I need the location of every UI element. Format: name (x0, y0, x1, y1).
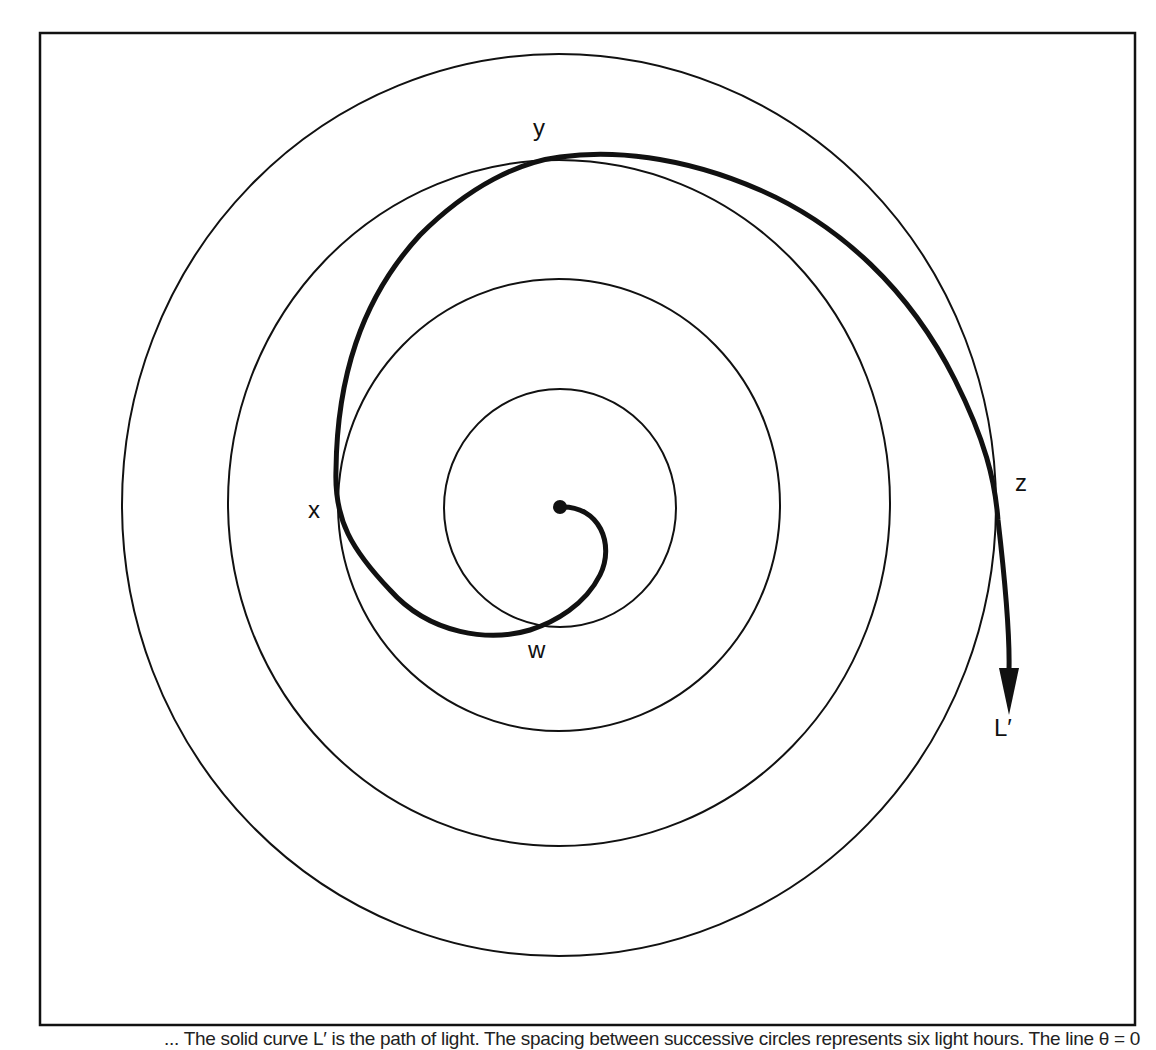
figure-caption: ... The solid curve L′ is the path of li… (40, 1028, 1140, 1050)
center-point (553, 500, 567, 514)
arrow-head-icon (999, 668, 1019, 715)
label-x: x (308, 498, 320, 522)
light-path-curve (336, 154, 1009, 670)
figure-frame (40, 33, 1135, 1025)
label-y: y (533, 116, 545, 140)
label-z: z (1015, 471, 1027, 495)
label-l-prime: L′ (994, 716, 1012, 740)
label-w: w (528, 638, 545, 662)
